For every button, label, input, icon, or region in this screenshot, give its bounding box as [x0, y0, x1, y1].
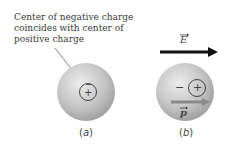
field-label: E [180, 34, 187, 45]
electric-field-arrow [160, 34, 218, 58]
plus-sign-b: + [193, 81, 202, 94]
figure: Center of negative charge coincides with… [0, 0, 226, 149]
minus-sign-b: − [175, 81, 184, 94]
dipole-label: p [180, 107, 187, 118]
panel-label-b: (b) [179, 127, 193, 138]
plus-sign-a: + [84, 87, 92, 98]
panel-label-a: (a) [79, 127, 93, 138]
leader-line [55, 48, 72, 70]
